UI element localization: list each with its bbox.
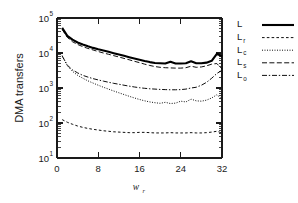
y-tick-exp-2: 2 (50, 115, 54, 122)
y-tick-label-5: 10 (38, 13, 49, 24)
y-axis-title: DMA transfers (13, 53, 25, 123)
legend-label-main-0: L (237, 18, 242, 29)
y-tick-exp-1: 1 (50, 150, 54, 157)
x-tick-label-2: 16 (134, 163, 145, 174)
chart-legend: LLrLcLsLo (237, 18, 294, 81)
curve-l (62, 28, 222, 64)
y-tick-label-4: 10 (38, 48, 49, 59)
y-tick-exp-3: 3 (50, 80, 54, 87)
x-tick-label-1: 8 (96, 163, 101, 174)
legend-label-sub-2: c (243, 49, 246, 56)
x-axis-title-main: w (133, 182, 140, 192)
legend-label-sub-4: o (243, 75, 247, 82)
data-curves (62, 28, 222, 133)
y-tick-label-2: 10 (38, 118, 49, 129)
y-tick-labels: 10 1 10 2 10 3 10 4 10 5 (38, 10, 53, 164)
chart-figure: 10 1 10 2 10 3 10 4 10 5 0 8 16 24 32 DM… (0, 0, 298, 203)
x-tick-label-3: 24 (175, 163, 186, 174)
y-tick-exp-4: 4 (50, 45, 54, 52)
y-tick-label-3: 10 (38, 83, 49, 94)
y-tick-exp-5: 5 (50, 10, 54, 17)
chart-canvas: 10 1 10 2 10 3 10 4 10 5 0 8 16 24 32 DM… (0, 0, 298, 203)
legend-label-main-4: L (237, 69, 242, 80)
x-axis-title: w r (133, 182, 146, 194)
x-tick-labels: 0 8 16 24 32 (54, 163, 227, 174)
curve-l-r (62, 120, 222, 133)
y-ticks-minor (57, 20, 222, 148)
legend-label-main-1: L (237, 31, 242, 42)
x-tick-label-4: 32 (217, 163, 228, 174)
y-tick-label-1: 10 (38, 153, 49, 164)
x-tick-label-0: 0 (54, 163, 59, 174)
legend-label-sub-1: r (243, 37, 245, 44)
legend-label-main-3: L (237, 56, 242, 67)
legend-label-main-2: L (237, 44, 242, 55)
legend-label-sub-3: s (243, 62, 246, 69)
x-axis-title-sub: r (143, 187, 146, 194)
